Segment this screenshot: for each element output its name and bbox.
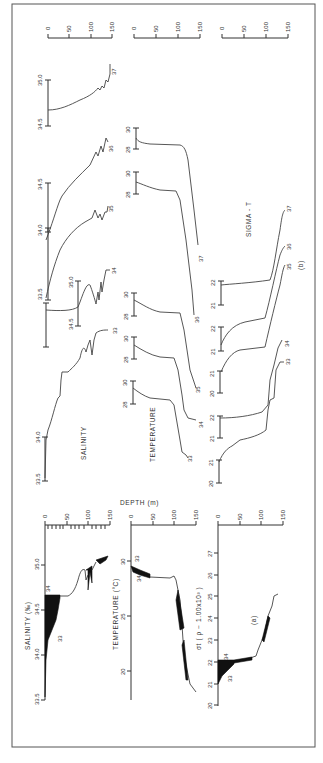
svg-text:25: 25 bbox=[207, 593, 213, 600]
svg-text:150: 150 bbox=[107, 509, 113, 520]
svg-text:21: 21 bbox=[210, 302, 216, 309]
svg-text:20: 20 bbox=[209, 390, 215, 397]
svg-text:35: 35 bbox=[108, 205, 114, 212]
svg-text:0: 0 bbox=[45, 26, 51, 30]
svg-text:50: 50 bbox=[237, 513, 243, 520]
svg-text:36: 36 bbox=[286, 243, 292, 250]
svg-text:TEMPERATURE (°C): TEMPERATURE (°C) bbox=[112, 578, 120, 650]
svg-text:28: 28 bbox=[125, 146, 131, 153]
svg-text:0: 0 bbox=[131, 26, 137, 30]
svg-text:34: 34 bbox=[284, 340, 290, 347]
svg-text:33.5: 33.5 bbox=[37, 288, 43, 300]
svg-text:21: 21 bbox=[207, 681, 213, 688]
sigma-profile-34: 22 21 34 bbox=[209, 340, 290, 442]
sigma-composite-a: 0 50 100 150 20 21 22 23 24 25 26 27 σt … bbox=[195, 509, 286, 709]
svg-text:150: 150 bbox=[197, 21, 203, 32]
svg-text:35.0: 35.0 bbox=[34, 558, 40, 570]
svg-text:30: 30 bbox=[122, 379, 128, 386]
temperature-profile-33: 30 28 33 bbox=[122, 379, 193, 462]
svg-text:50: 50 bbox=[241, 25, 247, 32]
salinity-profile-35: 33.5 35 bbox=[37, 205, 114, 300]
svg-text:28: 28 bbox=[123, 313, 129, 320]
svg-text:27: 27 bbox=[207, 550, 213, 557]
temperature-label-b: TEMPERATURE bbox=[149, 407, 156, 462]
svg-text:26: 26 bbox=[207, 572, 213, 579]
svg-text:100: 100 bbox=[175, 21, 181, 32]
svg-text:34.0: 34.0 bbox=[34, 648, 40, 660]
svg-text:33.5: 33.5 bbox=[35, 473, 41, 485]
svg-text:20: 20 bbox=[120, 668, 126, 675]
svg-text:100: 100 bbox=[258, 509, 264, 520]
svg-text:35.0: 35.0 bbox=[68, 276, 74, 288]
svg-text:22: 22 bbox=[207, 659, 213, 666]
salinity-profile-33: 34.0 33.5 33 bbox=[35, 327, 118, 485]
svg-text:30: 30 bbox=[125, 126, 131, 133]
svg-text:30: 30 bbox=[125, 170, 131, 177]
svg-text:28: 28 bbox=[123, 356, 129, 363]
depth-axis-salinity-b: 0 50 100 150 bbox=[45, 21, 115, 38]
panel-a-label: (a) bbox=[250, 615, 258, 625]
svg-text:150: 150 bbox=[280, 509, 286, 520]
svg-text:35: 35 bbox=[286, 263, 292, 270]
svg-text:34.5: 34.5 bbox=[68, 318, 74, 330]
svg-text:28: 28 bbox=[125, 191, 131, 198]
svg-text:30: 30 bbox=[123, 291, 129, 298]
svg-text:35: 35 bbox=[195, 386, 201, 393]
svg-text:21: 21 bbox=[210, 348, 216, 355]
svg-text:22: 22 bbox=[209, 414, 215, 421]
svg-text:22: 22 bbox=[210, 325, 216, 332]
svg-text:34: 34 bbox=[198, 421, 204, 428]
svg-text:50: 50 bbox=[153, 25, 159, 32]
svg-text:50: 50 bbox=[66, 25, 72, 32]
depth-axis-temperature-b: 0 50 100 150 bbox=[131, 21, 203, 38]
svg-text:SALINITY (‰): SALINITY (‰) bbox=[24, 601, 32, 650]
svg-text:33: 33 bbox=[187, 455, 193, 462]
svg-text:21: 21 bbox=[209, 370, 215, 377]
svg-text:100: 100 bbox=[263, 21, 269, 32]
svg-text:37: 37 bbox=[198, 255, 204, 262]
svg-text:0: 0 bbox=[42, 514, 48, 518]
salinity-profile-34: 35.0 34.5 34 bbox=[43, 267, 117, 347]
svg-text:33: 33 bbox=[227, 675, 233, 682]
svg-text:33.5: 33.5 bbox=[34, 693, 40, 705]
depth-axis-sigma-b: 0 50 100 150 bbox=[219, 21, 291, 38]
svg-text:0: 0 bbox=[128, 514, 134, 518]
svg-text:34.5: 34.5 bbox=[34, 603, 40, 615]
panel-b-label: (b) bbox=[297, 260, 305, 270]
svg-text:33: 33 bbox=[57, 635, 63, 642]
svg-text:34.0: 34.0 bbox=[35, 431, 41, 443]
svg-text:24: 24 bbox=[207, 615, 213, 622]
svg-text:21: 21 bbox=[208, 459, 214, 466]
svg-text:0: 0 bbox=[219, 26, 225, 30]
svg-text:σt ( ρ − 1.00x10³ ): σt ( ρ − 1.00x10³ ) bbox=[195, 587, 203, 650]
svg-text:34: 34 bbox=[136, 575, 142, 582]
svg-text:34.5: 34.5 bbox=[37, 178, 43, 190]
sigma-label-b: SIGMA - T bbox=[245, 201, 252, 237]
svg-text:25: 25 bbox=[120, 613, 126, 620]
svg-text:37: 37 bbox=[111, 68, 117, 75]
svg-text:0: 0 bbox=[215, 514, 221, 518]
svg-text:36: 36 bbox=[108, 145, 114, 152]
svg-text:28: 28 bbox=[122, 401, 128, 408]
svg-text:150: 150 bbox=[285, 21, 291, 32]
svg-text:30: 30 bbox=[120, 558, 126, 565]
svg-text:33: 33 bbox=[134, 555, 140, 562]
svg-text:50: 50 bbox=[64, 513, 70, 520]
svg-text:37: 37 bbox=[286, 205, 292, 212]
svg-text:50: 50 bbox=[150, 513, 156, 520]
svg-text:33: 33 bbox=[112, 327, 118, 334]
svg-text:150: 150 bbox=[109, 21, 115, 32]
svg-text:30: 30 bbox=[123, 335, 129, 342]
temperature-composite-a: 0 50 100 150 20 25 30 TEMPERATURE (°C) 3… bbox=[112, 509, 199, 700]
svg-text:100: 100 bbox=[171, 509, 177, 520]
sigma-profile-36: 22 21 36 bbox=[210, 243, 292, 355]
svg-text:34.0: 34.0 bbox=[37, 224, 43, 236]
salinity-composite-a: 0 50 100 150 33.5 34.0 34.5 35.0 SALINIT… bbox=[24, 509, 113, 705]
svg-text:20: 20 bbox=[207, 702, 213, 709]
svg-text:21: 21 bbox=[209, 435, 215, 442]
svg-text:33: 33 bbox=[285, 358, 291, 365]
svg-text:36: 36 bbox=[194, 316, 200, 323]
svg-text:20: 20 bbox=[208, 480, 214, 487]
svg-text:34: 34 bbox=[223, 653, 229, 660]
temperature-profile-35: 30 28 35 bbox=[123, 291, 201, 393]
